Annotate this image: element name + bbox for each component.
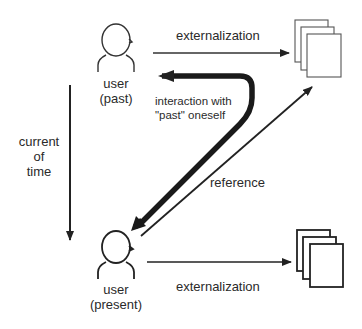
user-past-label: user (past) [96,76,136,106]
user-present-label-line1: user [84,282,148,297]
externalization-present-label: externalization [176,279,260,294]
externalization-past-label: externalization [176,28,260,43]
user-present-label: user (present) [84,282,148,312]
interaction-label-line1: interaction with [155,94,232,108]
time-label-line1: current [14,134,64,149]
user-past-label-line1: user [96,76,136,91]
time-label: current of time [14,134,64,179]
time-label-line2: of [14,149,64,164]
time-label-line3: time [14,164,64,179]
user-present-figure-icon [98,231,134,279]
reference-label: reference [210,175,265,190]
user-past-label-line2: (past) [96,91,136,106]
interaction-label: interaction with "past" oneself [155,94,232,122]
documents-present-icon [297,230,343,287]
documents-past-icon [295,20,341,77]
user-past-figure-icon [98,24,134,72]
interaction-label-line2: "past" oneself [155,108,232,122]
user-present-label-line2: (present) [84,297,148,312]
